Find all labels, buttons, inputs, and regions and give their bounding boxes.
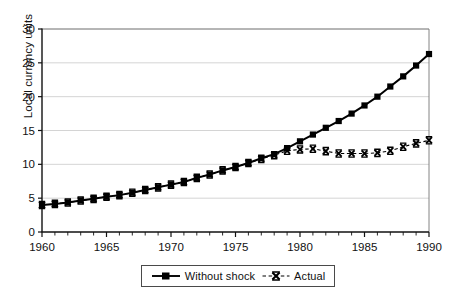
x-bowtie-icon — [262, 270, 290, 282]
data-point-marker — [374, 94, 380, 100]
y-tick-label: 15 — [22, 125, 35, 137]
x-tick-label: 1980 — [287, 241, 313, 253]
x-tick-label: 1985 — [352, 241, 378, 253]
legend-item-actual[interactable]: Actual — [262, 270, 325, 282]
filled-square-icon — [151, 270, 181, 282]
legend-label-actual: Actual — [294, 270, 325, 282]
data-point-marker — [426, 51, 432, 57]
data-point-marker — [297, 138, 303, 144]
y-tick-label: 10 — [22, 158, 35, 170]
data-point-marker — [336, 118, 342, 124]
legend-item-without-shock[interactable]: Without shock — [151, 270, 255, 282]
data-point-marker — [387, 83, 393, 89]
chart-figure: Local currency units 0510152025301960196… — [0, 0, 452, 300]
y-tick-label: 25 — [22, 57, 35, 69]
series-markers-without-shock — [39, 51, 432, 208]
data-point-marker — [413, 62, 419, 68]
chart-legend: Without shock Actual — [141, 265, 335, 287]
series-line-actual — [42, 140, 429, 205]
data-point-marker — [310, 145, 316, 152]
y-tick-label: 5 — [29, 192, 35, 204]
data-point-marker — [361, 102, 367, 108]
x-tick-label: 1965 — [94, 241, 120, 253]
series-line-without-shock — [42, 54, 429, 205]
data-point-marker — [400, 143, 406, 150]
y-tick-label: 20 — [22, 91, 35, 103]
legend-label-without-shock: Without shock — [185, 270, 255, 282]
data-point-marker — [400, 73, 406, 79]
x-tick-label: 1970 — [158, 241, 184, 253]
data-point-marker — [323, 125, 329, 131]
data-point-marker — [387, 147, 393, 154]
y-tick-label: 30 — [22, 23, 35, 35]
y-tick-label: 0 — [29, 226, 35, 238]
data-point-marker — [349, 110, 355, 116]
x-tick-label: 1960 — [29, 241, 55, 253]
x-tick-label: 1975 — [223, 241, 249, 253]
x-tick-label: 1990 — [416, 241, 442, 253]
data-point-marker — [310, 131, 316, 137]
line-chart-plot: 0510152025301960196519701975198019851990 — [0, 0, 452, 300]
